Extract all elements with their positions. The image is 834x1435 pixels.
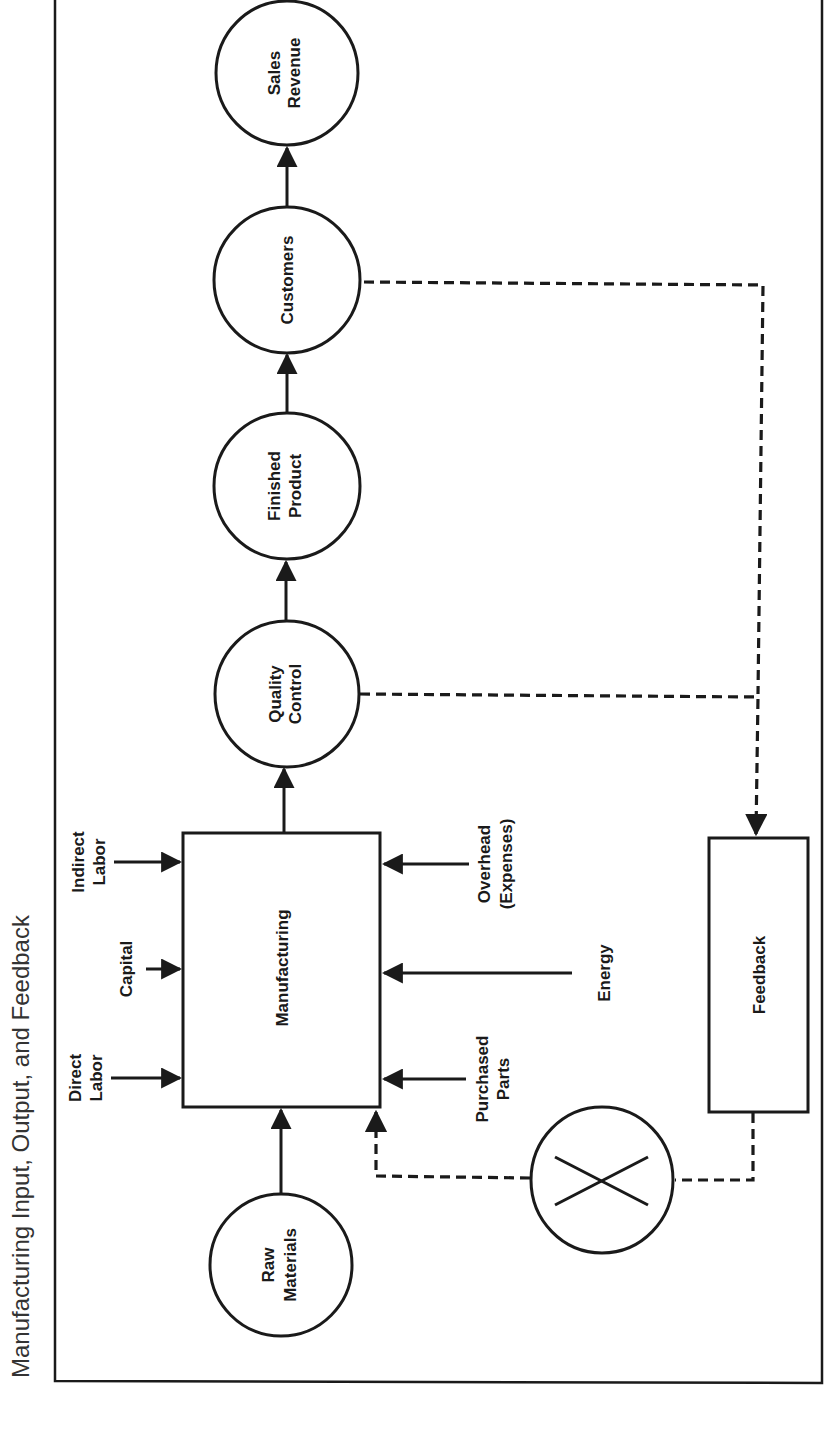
node-raw-materials-line2: Materials	[281, 1228, 300, 1302]
node-customers: Customers	[214, 207, 360, 353]
dashed-comparator-to-manufacturing	[376, 1112, 530, 1178]
input-indirect-labor: Indirect Labor	[69, 831, 109, 893]
node-sales-revenue-line2: Revenue	[285, 38, 304, 109]
node-customers-label: Customers	[278, 236, 297, 325]
node-quality-control-line2: Control	[286, 664, 305, 724]
input-overhead-line1: Overhead	[475, 825, 494, 903]
input-capital-label: Capital	[117, 941, 136, 998]
input-purchased-parts: Purchased Parts	[473, 1036, 513, 1123]
node-sales-revenue-line1: Sales	[265, 51, 284, 95]
node-finished-product-line1: Finished	[265, 451, 284, 521]
input-energy-label: Energy	[595, 944, 614, 1002]
input-energy: Energy	[595, 944, 614, 1002]
dashed-feedback-to-comparator	[675, 1113, 753, 1180]
node-feedback: Feedback	[709, 838, 808, 1112]
input-direct-labor-line2: Labor	[87, 1054, 106, 1102]
input-indirect-labor-line1: Indirect	[69, 831, 88, 893]
node-manufacturing-label: Manufacturing	[273, 909, 292, 1026]
node-feedback-label: Feedback	[750, 935, 769, 1014]
diagram-title: Manufacturing Input, Output, and Feedbac…	[7, 914, 34, 1378]
input-purchased-parts-line2: Parts	[494, 1058, 513, 1101]
node-quality-control-line1: Quality	[266, 665, 285, 723]
node-finished-product-line2: Product	[286, 454, 305, 519]
input-direct-labor-line1: Direct	[66, 1054, 85, 1103]
node-raw-materials: Raw Materials	[210, 1194, 352, 1336]
input-capital: Capital	[117, 941, 136, 998]
diagram-canvas: Manufacturing Input, Output, and Feedbac…	[0, 0, 834, 1435]
node-raw-materials-line1: Raw	[259, 1247, 278, 1283]
node-comparator	[531, 1107, 673, 1253]
input-purchased-parts-line1: Purchased	[473, 1036, 492, 1123]
input-overhead-line2: (Expenses)	[497, 819, 516, 910]
input-overhead: Overhead (Expenses)	[475, 819, 516, 910]
node-manufacturing: Manufacturing	[183, 833, 380, 1107]
dashed-quality-to-feedback	[360, 694, 758, 834]
input-indirect-labor-line2: Labor	[90, 838, 109, 886]
diagram-frame	[55, 0, 822, 1383]
node-sales-revenue: Sales Revenue	[216, 1, 358, 145]
node-quality-control: Quality Control	[215, 621, 359, 767]
node-finished-product: Finished Product	[214, 413, 360, 559]
dashed-customers-to-feedback	[364, 282, 763, 694]
input-direct-labor: Direct Labor	[66, 1054, 106, 1103]
